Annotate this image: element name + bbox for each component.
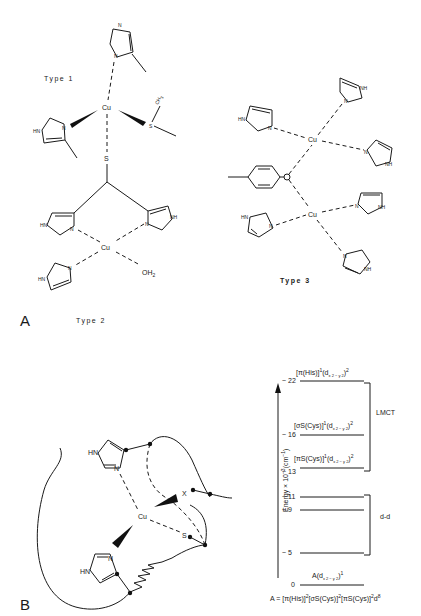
phenolate-bridge: [228, 166, 290, 188]
n-label: N: [268, 125, 272, 131]
his-link-bottom: [117, 574, 130, 592]
nh-label: NH: [170, 214, 178, 220]
hn-label: HN: [33, 128, 41, 134]
imidazole-lower: HN N: [38, 263, 72, 290]
cu-top-label: Cu: [308, 136, 317, 143]
level-value: ~ 16: [282, 431, 296, 438]
wedge-front-icon: [112, 525, 133, 548]
cu-s-bond: [150, 520, 180, 532]
cu-label: Cu: [138, 513, 147, 520]
hn-label: HN: [80, 568, 90, 575]
cu-n-bond: [74, 252, 98, 266]
alpha-carbon-dot: [208, 492, 212, 496]
cu-n-bond: [322, 205, 355, 212]
n-label: N: [114, 465, 119, 472]
n-label: N: [68, 265, 72, 271]
energy-level-diagram: Energy × 10−3(cm−1) ~ 22 [π(His)]1(dx 2 …: [270, 367, 396, 603]
n-label: N: [70, 226, 74, 232]
type1-site: N N Type 1 Cu HN N S CH3 S: [33, 22, 176, 182]
imidazole-right-1: N NH: [364, 140, 393, 167]
n-label: N: [364, 149, 368, 155]
alpha-carbon-dot: [148, 442, 152, 446]
o-atom: [284, 174, 290, 180]
level-value: ~ 13: [282, 468, 296, 475]
level-label: [πS(Cys)]1(dx 2 − y 2)2: [294, 453, 354, 464]
hn-label: HN: [241, 214, 249, 220]
n-label: N: [343, 253, 347, 259]
dd-label: d-d: [380, 513, 390, 520]
level-9: ~ 9: [282, 506, 364, 513]
imidazole-bottom: N NH: [343, 250, 372, 274]
wedge-right-icon: [118, 110, 146, 126]
imidazole-upper-left: HN N: [40, 213, 74, 235]
level-value: ~ 22: [282, 377, 296, 384]
ground-state-formula: A = [π(His)]2[σS(Cys)]2[πS(Cys)]2d8: [270, 593, 381, 603]
level-label: A(dx 2 − y 2)1: [312, 570, 343, 581]
imidazole-upper-right: NH N: [145, 206, 178, 230]
methionine-thioether: S CH3: [149, 94, 176, 136]
helix-segment: [130, 558, 172, 592]
panel-b-label: B: [20, 596, 30, 613]
energy-axis-label: Energy × 10−3(cm−1): [280, 449, 290, 512]
hn-label: HN: [88, 449, 98, 456]
dd-bracket: [364, 495, 370, 555]
level-13: ~ 13 [πS(Cys)]1(dx 2 − y 2)2: [282, 453, 364, 475]
type3-title: Type 3: [280, 277, 311, 285]
blue-copper-site: HN N Cu S X HN N B: [20, 437, 232, 613]
backbone-right: [190, 505, 206, 545]
figure-canvas: N N Type 1 Cu HN N S CH3 S: [0, 0, 421, 616]
type3-site: NH N HN N Cu N NH: [228, 78, 393, 285]
level-value: ~ 11: [282, 493, 295, 500]
nh-label: NH: [360, 85, 368, 91]
cu-n-bond: [78, 230, 100, 242]
cu-label: Cu: [101, 244, 110, 251]
backbone-left-loop: [37, 448, 130, 609]
his-imidazole-bottom: HN N: [80, 554, 117, 583]
imidazole-right-2: N NH: [355, 193, 386, 214]
cu-water-bond: [116, 252, 140, 265]
level-label: [π(His)]1(dx 2 − y 2)2: [296, 367, 349, 378]
alpha-carbon-dot: [128, 591, 132, 595]
nh-label: N: [118, 22, 122, 28]
level-11: ~ 11: [282, 493, 364, 500]
bridge-left: [74, 182, 107, 213]
level-label: [σS(Cys)]1(dx 2 − y 2)2: [294, 420, 353, 431]
his-imidazole-top: HN N: [88, 440, 124, 472]
hn-label: HN: [38, 276, 46, 282]
s-label: S: [182, 532, 187, 539]
n-label: N: [344, 98, 348, 104]
type2-title: Type 2: [76, 317, 106, 325]
cu-his-bond: [120, 474, 138, 510]
water-label: OH2: [142, 269, 156, 278]
type2-site: HN N NH N Cu HN N OH2 A Type 2: [20, 182, 178, 329]
imidazole-top-right: NH N: [340, 78, 368, 104]
his-link-top: [126, 444, 150, 450]
n-label: N: [269, 223, 273, 229]
level-value: ~ 9: [282, 506, 292, 513]
level-0: 0 A(dx 2 − y 2)1: [291, 570, 364, 588]
ch3-label: CH3: [153, 94, 165, 107]
cu-n-bond: [322, 141, 364, 150]
n-label: N: [114, 53, 118, 59]
imidazole-bottom-left: HN N: [241, 213, 273, 237]
o-cu-bond: [289, 145, 312, 174]
cu-n-bond: [274, 128, 306, 138]
hn-label: HN: [238, 116, 246, 122]
backbone-x-link: [193, 490, 232, 498]
cu-n-bond-top: [108, 62, 114, 100]
backbone-top-loop: [150, 437, 210, 497]
panel-a-label: A: [20, 312, 30, 329]
axis-arrow-icon: [275, 383, 281, 393]
alpha-carbon-dot: [191, 488, 195, 492]
nh-label: NH: [378, 204, 386, 210]
nh-label: NH: [364, 266, 372, 272]
lmct-bracket: [364, 383, 370, 471]
n-label: N: [355, 203, 359, 209]
s-cys-label: S: [104, 155, 109, 162]
o-cu-bond: [289, 180, 308, 206]
cu-n-bond: [114, 224, 144, 242]
cu-n-bond: [318, 104, 342, 135]
level-16: ~ 16 [σS(Cys)]1(dx 2 − y 2)2: [282, 420, 364, 438]
cu-bottom-label: Cu: [308, 211, 317, 218]
type1-title: Type 1: [44, 75, 74, 83]
